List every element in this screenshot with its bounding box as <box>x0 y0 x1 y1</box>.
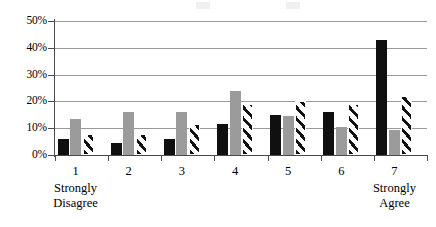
bar-diagonal-hatch-cat-3 <box>189 124 200 155</box>
gridline <box>55 101 427 102</box>
bar-solid-gray-cat-6 <box>336 127 347 155</box>
bar-solid-black-cat-1 <box>58 139 69 155</box>
bar-diagonal-hatch-cat-5 <box>295 101 306 155</box>
endpoint-line: Disagree <box>31 196 121 211</box>
x-axis-category-label: 5 <box>268 164 308 178</box>
x-axis-line <box>54 155 428 156</box>
x-axis-tick <box>161 155 162 161</box>
x-axis-endpoint-low: StronglyDisagree <box>31 181 121 211</box>
bar-solid-gray-cat-1 <box>70 119 81 155</box>
bar-solid-gray-cat-4 <box>230 91 241 155</box>
gridline <box>55 21 427 22</box>
x-axis-category-label: 7 <box>374 164 414 178</box>
bar-diagonal-hatch-cat-1 <box>83 134 94 155</box>
bar-diagonal-hatch-cat-6 <box>348 104 359 155</box>
bar-solid-black-cat-5 <box>270 115 281 155</box>
bar-solid-black-cat-4 <box>217 124 228 155</box>
x-axis-tick <box>374 155 375 161</box>
x-axis-tick <box>268 155 269 161</box>
x-axis-tick <box>214 155 215 161</box>
x-axis-category-label: 4 <box>215 164 255 178</box>
x-axis-category-label: 2 <box>109 164 149 178</box>
gridline <box>55 75 427 76</box>
bar-solid-gray-cat-2 <box>123 112 134 155</box>
bar-diagonal-hatch-cat-2 <box>136 134 147 155</box>
x-axis-tick <box>427 155 428 161</box>
x-axis-tick <box>108 155 109 161</box>
gridline <box>55 48 427 49</box>
y-axis-tick-label: 30% <box>3 69 47 81</box>
bar-solid-black-cat-2 <box>111 143 122 155</box>
x-axis-tick <box>55 155 56 161</box>
y-axis-tick-label: 50% <box>3 15 47 27</box>
gridline <box>55 128 427 129</box>
legend-clipped-remnant <box>286 2 300 9</box>
x-axis-category-label: 1 <box>56 164 96 178</box>
bar-chart: 0%10%20%30%40%50% 1234567 StronglyDisagr… <box>0 0 436 227</box>
bar-diagonal-hatch-cat-7 <box>401 96 412 155</box>
bar-solid-black-cat-6 <box>323 112 334 155</box>
bar-solid-gray-cat-3 <box>176 112 187 155</box>
x-axis-category-label: 3 <box>162 164 202 178</box>
y-axis-tick-label: 40% <box>3 42 47 54</box>
y-axis-tick-label: 0% <box>3 149 47 161</box>
bar-solid-gray-cat-7 <box>389 130 400 155</box>
x-axis-tick <box>321 155 322 161</box>
bar-solid-gray-cat-5 <box>283 116 294 155</box>
plot-area <box>55 21 427 155</box>
endpoint-line: Agree <box>349 196 436 211</box>
bar-solid-black-cat-3 <box>164 139 175 155</box>
bar-solid-black-cat-7 <box>376 40 387 155</box>
endpoint-line: Strongly <box>349 181 436 196</box>
x-axis-endpoint-high: StronglyAgree <box>349 181 436 211</box>
legend-clipped-remnant <box>196 2 210 9</box>
y-axis-tick-label: 10% <box>3 122 47 134</box>
x-axis-category-label: 6 <box>321 164 361 178</box>
y-axis-tick-label: 20% <box>3 95 47 107</box>
bar-diagonal-hatch-cat-4 <box>242 104 253 155</box>
endpoint-line: Strongly <box>31 181 121 196</box>
